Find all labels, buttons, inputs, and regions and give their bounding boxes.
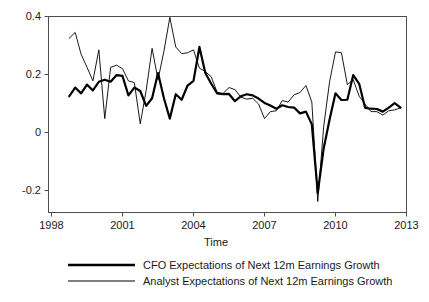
x-tick-label-0: 1998: [39, 219, 63, 231]
x-tick-label-3: 2007: [252, 219, 276, 231]
axes-frame: [49, 17, 407, 213]
legend-label-cfo: CFO Expectations of Next 12m Earnings Gr…: [143, 259, 380, 271]
y-axis: 0.4 0.2 0 -0.2: [22, 10, 48, 196]
x-tick-label-1: 2001: [110, 219, 134, 231]
x-tick-label-2: 2004: [181, 219, 205, 231]
x-tick-label-4: 2010: [323, 219, 347, 231]
series-line-analyst: [69, 17, 400, 201]
y-tick-label-2: 0: [35, 126, 41, 138]
earnings-growth-expectations-chart: 0.4 0.2 0 -0.2 1998 2001 2004 2007 2010 …: [0, 0, 429, 302]
x-axis-title: Time: [204, 236, 228, 248]
y-tick-label-3: -0.2: [22, 184, 41, 196]
legend: CFO Expectations of Next 12m Earnings Gr…: [68, 259, 392, 287]
x-axis: 1998 2001 2004 2007 2010 2013 Time: [39, 213, 418, 249]
data-series-group: [69, 17, 400, 201]
y-tick-label-0: 0.4: [26, 10, 41, 22]
x-tick-label-5: 2013: [394, 219, 418, 231]
legend-label-analyst: Analyst Expectations of Next 12m Earning…: [143, 275, 392, 287]
plot-frame: [49, 17, 407, 213]
series-line-cfo: [69, 47, 400, 193]
y-tick-label-1: 0.2: [26, 68, 41, 80]
